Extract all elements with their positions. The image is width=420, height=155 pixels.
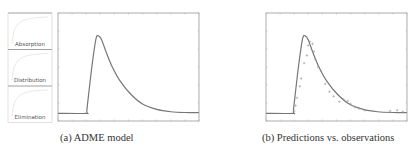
plot-a-frame: [58, 13, 199, 121]
caption-a: (a) ADME model: [60, 132, 134, 143]
plot-b-frame: [266, 13, 407, 121]
plot-a-curve: [58, 35, 199, 113]
compartment-label-distribution: Distribution: [14, 77, 47, 83]
plot-b-curve: [266, 35, 407, 113]
compartment-label-absorption: Absorption: [15, 41, 45, 48]
caption-b: (b) Predictions vs. observations: [262, 132, 394, 143]
compartment-label-elimination: Elimination: [15, 114, 46, 120]
